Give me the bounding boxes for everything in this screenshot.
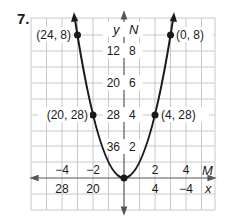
y-tick-36: 36 [107,140,121,154]
point-20-28 [90,112,97,119]
point-label-4-28: (4, 28) [161,108,196,122]
M-tick-neg2: −2 [86,163,100,177]
parabola-graph: y N M x 12 8 20 6 28 4 36 2 −4 −2 2 4 28… [0,0,230,224]
point-0-8 [167,32,174,39]
x-tick-28: 28 [55,182,69,196]
curve-arrow-left [71,12,78,22]
axis-name-N: N [129,22,139,37]
y-tick-20: 20 [107,76,121,90]
x-tick-20: 20 [86,182,100,196]
N-tick-4: 4 [129,108,136,122]
x-tick-4: 4 [152,182,159,196]
M-tick-neg4: −4 [55,163,69,177]
N-tick-8: 8 [129,44,136,58]
N-tick-6: 6 [129,76,136,90]
point-label-24-8: (24, 8) [36,28,71,42]
M-tick-4: 4 [183,163,190,177]
M-tick-2: 2 [152,163,159,177]
point-label-20-28: (20, 28) [47,108,88,122]
axis-name-x: x [204,181,212,196]
point-4-28 [152,112,159,119]
y-tick-12: 12 [107,44,121,58]
y-tick-28: 28 [107,108,121,122]
vertex-point [121,175,128,182]
x-tick-neg4: −4 [179,182,193,196]
point-label-0-8: (0, 8) [176,28,204,42]
point-24-8 [74,32,81,39]
axis-name-M: M [202,163,213,178]
N-tick-2: 2 [129,140,136,154]
curve-arrow-right [170,12,177,22]
